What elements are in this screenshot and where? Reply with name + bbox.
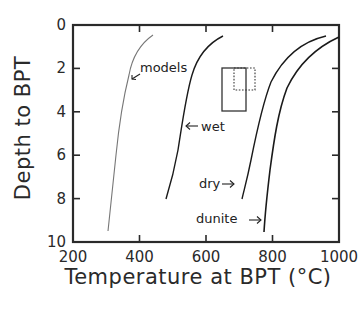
x-tick-label-400: 400 [125,248,154,266]
label-dry: dry [199,176,221,191]
x-axis-title: Temperature at BPT (°C) [63,265,331,289]
x-tick-label-1000: 1000 [320,248,358,266]
curve-dry [242,36,326,199]
y-tick-label-4: 4 [56,103,66,121]
y-tick-label-6: 6 [56,146,66,164]
dotted-box [234,68,255,90]
y-tick-label-8: 8 [56,190,66,208]
annotation-models: models [132,60,187,80]
x-tick-labels: 200 400 600 800 1000 [59,248,358,266]
y-tick-label-0: 0 [56,16,66,34]
y-tick-label-2: 2 [56,59,66,77]
y-tick-label-10: 10 [47,233,66,251]
label-models: models [140,60,187,75]
chart: 200 400 600 800 1000 0 2 4 6 8 10 Temper… [0,0,358,309]
curve-dunite [264,37,339,232]
label-wet: wet [201,119,225,134]
y-tick-labels: 0 2 4 6 8 10 [47,16,66,251]
y-axis-title: Depth to BPT [11,56,35,200]
arrow-models-icon [132,74,140,79]
x-tick-label-600: 600 [192,248,221,266]
annotation-wet: wet [186,119,225,134]
label-dunite: dunite [196,211,237,226]
annotation-dunite: dunite [196,211,261,226]
annotation-dry: dry [199,176,234,191]
x-tick-label-800: 800 [258,248,287,266]
